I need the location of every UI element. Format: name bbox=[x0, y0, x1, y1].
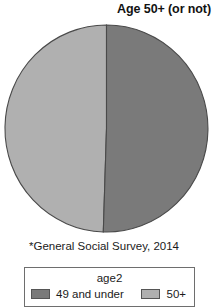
source-note: *General Social Survey, 2014 bbox=[0, 239, 208, 253]
legend-swatch-50-plus bbox=[141, 289, 160, 299]
legend-item-49-and-under[interactable]: 49 and under bbox=[31, 287, 124, 301]
pie-slice-50-plus[interactable] bbox=[5, 25, 107, 232]
pie-chart-svg bbox=[4, 24, 209, 233]
legend-label-49-and-under: 49 and under bbox=[56, 287, 124, 301]
page-title: Age 50+ (or not) bbox=[0, 2, 211, 17]
legend-item-50-plus[interactable]: 50+ bbox=[141, 287, 186, 301]
legend-entry-list: 49 and under 50+ bbox=[25, 286, 194, 301]
pie-slice-49-and-under[interactable] bbox=[103, 25, 208, 232]
legend-title: age2 bbox=[25, 268, 194, 286]
legend-label-50-plus: 50+ bbox=[166, 287, 186, 301]
legend-swatch-49-and-under bbox=[31, 289, 50, 299]
pie-chart-plot-area bbox=[4, 24, 209, 233]
legend: age2 49 and under 50+ bbox=[24, 267, 195, 307]
